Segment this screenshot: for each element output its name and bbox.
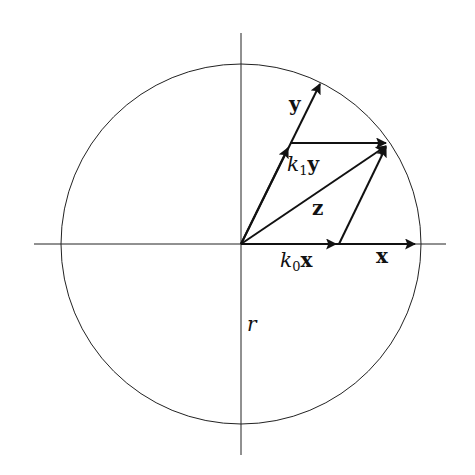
label-k0x: k0x [280, 248, 313, 274]
label-k1y: k1y [287, 152, 320, 178]
diagram-svg: y k1y z k0x x r [0, 0, 475, 475]
label-y: y [288, 92, 302, 116]
label-x: x [376, 244, 389, 268]
label-k1y-coefficient: k [287, 152, 299, 176]
label-r: r [247, 312, 258, 336]
label-z: z [312, 196, 323, 220]
label-k1y-subscript: 1 [299, 163, 307, 178]
label-k0x-subscript: 0 [292, 259, 300, 274]
label-k0x-coefficient: k [280, 248, 292, 272]
vector-decomposition-diagram: y k1y z k0x x r [0, 0, 475, 475]
label-k1y-vector: y [306, 152, 320, 176]
vector-k1y [241, 148, 288, 244]
label-k0x-vector: x [300, 248, 313, 272]
